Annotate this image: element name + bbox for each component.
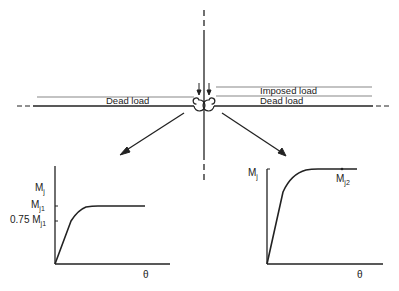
arrow-down-icon (207, 90, 211, 95)
x-axis-label: θ (357, 269, 363, 280)
left-moment-rotation-chart: Mj Mj1 0.75 Mj1 θ (10, 166, 170, 280)
y-axis-label: Mj (248, 167, 258, 181)
left-dead-load-label: Dead load (106, 95, 149, 106)
tick-label-075mj1: 0.75 Mj1 (10, 214, 46, 228)
arrow-right-down-icon (278, 148, 286, 156)
annotation-mj2: Mj2 (336, 173, 350, 187)
curve (55, 206, 145, 264)
right-moment-rotation-chart: Mj Mj2 θ (248, 167, 383, 280)
x-axis-label: θ (143, 269, 149, 280)
tick-label-mj1: Mj1 (31, 199, 45, 213)
y-axis-label: Mj (35, 182, 45, 196)
beam-column-connection-diagram: Dead load Imposed load Dead load Mj Mj1 (0, 0, 399, 291)
arrow-down-icon (197, 90, 201, 95)
pointer-arrows (120, 113, 286, 156)
right-dead-load-label: Dead load (260, 95, 303, 106)
